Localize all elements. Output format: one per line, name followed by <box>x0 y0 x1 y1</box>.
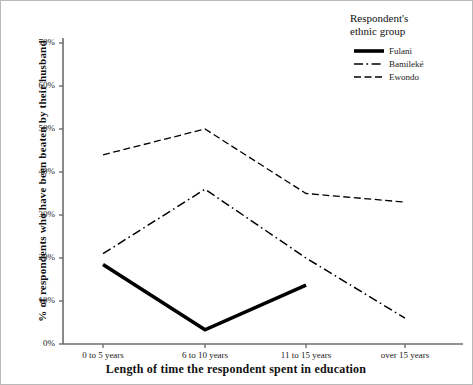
dashed-line-icon <box>354 72 384 82</box>
y-axis-tick-label: 50% <box>15 123 55 133</box>
y-axis-tick-label: 20% <box>15 252 55 262</box>
legend-item-label: Bamileké <box>389 59 424 69</box>
y-axis-tick-label: 0% <box>15 338 55 348</box>
y-axis-tick-label: 60% <box>15 80 55 90</box>
y-axis-tick-label: 70% <box>15 37 55 47</box>
legend-item-fulani[interactable]: Fulani <box>354 45 466 58</box>
legend-item-label: Fulani <box>389 46 412 56</box>
x-axis-tick-label: 11 to 15 years <box>281 350 331 360</box>
legend-title-line2: ethnic group <box>350 25 466 38</box>
dash-dot-line-icon <box>354 59 384 69</box>
y-axis-tick-label: 10% <box>15 295 55 305</box>
series-line-ewondo <box>103 129 405 202</box>
legend-title: Respondent's ethnic group <box>348 12 466 39</box>
legend-items: FulaniBamilekéEwondo <box>348 45 466 84</box>
series-line-fulani <box>103 264 306 329</box>
x-axis-tick-label: 6 to 10 years <box>182 350 228 360</box>
x-axis-tick-label: over 15 years <box>381 350 429 360</box>
chart-legend: Respondent's ethnic group FulaniBamileké… <box>348 12 466 84</box>
y-axis-tick-label: 30% <box>15 209 55 219</box>
legend-item-ewondo[interactable]: Ewondo <box>354 71 466 84</box>
x-axis-tick-label: 0 to 5 years <box>82 350 124 360</box>
legend-title-line1: Respondent's <box>350 12 466 25</box>
x-axis-title: Length of time the respondent spent in e… <box>0 362 472 377</box>
legend-item-bamilek[interactable]: Bamileké <box>354 58 466 71</box>
series-line-bamilek <box>103 189 405 318</box>
y-axis-tick-label: 40% <box>15 166 55 176</box>
thick-solid-line-icon <box>354 46 384 56</box>
y-axis-title: % of respondents who have been beaten by… <box>36 21 48 341</box>
legend-item-label: Ewondo <box>389 72 419 82</box>
series-lines <box>103 129 405 330</box>
